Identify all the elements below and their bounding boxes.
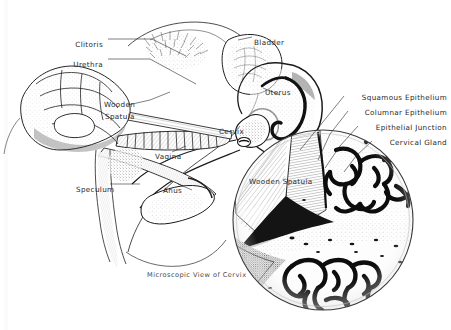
inset-caption: Microscopic View of Cervix (147, 271, 246, 279)
thigh-contour (126, 240, 226, 266)
label-bladder: Bladder (254, 39, 284, 46)
label-inset-spatula: Wooden Spatula (249, 178, 313, 185)
microscopic-inset (230, 127, 420, 317)
fingertip-shading (108, 148, 143, 181)
cervical-smear-illustration (0, 0, 451, 330)
label-cervical-gland: Cervical Gland (390, 139, 447, 146)
label-squamous-epithelium: Squamous Epithelium (362, 94, 447, 101)
anus-rectum (141, 178, 214, 224)
label-clitoris: Clitoris (75, 41, 103, 48)
label-speculum: Speculum (76, 186, 114, 193)
label-epithelial-junction: Epithelial Junction (376, 124, 447, 131)
label-wooden-spatula: Wooden (104, 101, 135, 108)
label-wooden-spatula2: Spatula (105, 113, 135, 120)
label-vagina: Vagina (155, 153, 181, 160)
label-urethra: Urethra (73, 61, 103, 68)
label-cervix: Cervix (219, 128, 244, 135)
label-uterus: Uterus (265, 89, 291, 96)
label-anus: Anus (163, 187, 182, 194)
label-columnar-epithelium: Columnar Epithelium (365, 109, 447, 116)
scan-edge-artifact (4, 0, 8, 330)
